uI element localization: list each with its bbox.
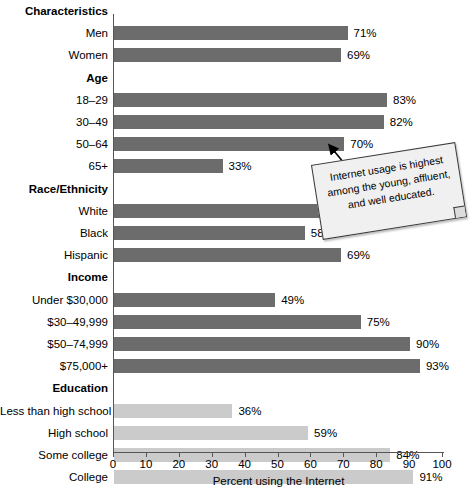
group-header-row: Education — [0, 377, 472, 399]
chart-row: High school59% — [0, 422, 472, 444]
category-label: 65+ — [0, 155, 108, 177]
category-label: Hispanic — [0, 244, 108, 266]
x-axis-title: Percent using the Internet — [113, 475, 444, 487]
bar — [114, 226, 305, 240]
chart-row: Women69% — [0, 44, 472, 66]
group-header-label: Income — [0, 266, 108, 288]
y-axis-line — [113, 14, 114, 452]
category-label: 18–29 — [0, 89, 108, 111]
x-tick — [212, 452, 213, 457]
x-tick — [409, 452, 410, 457]
category-label: Women — [0, 44, 108, 66]
chart-row: Hispanic69% — [0, 244, 472, 266]
chart-row: Men71% — [0, 22, 472, 44]
bar-value-label: 71% — [354, 22, 377, 44]
x-tick — [343, 452, 344, 457]
category-label: 30–49 — [0, 111, 108, 133]
chart-row: Under $30,00049% — [0, 289, 472, 311]
group-header-row: Income — [0, 266, 472, 288]
x-tick — [442, 452, 443, 457]
chart-row: 18–2983% — [0, 89, 472, 111]
bar — [114, 248, 341, 262]
category-label: High school — [0, 422, 108, 444]
bar-value-label: 33% — [229, 155, 252, 177]
bar-value-label: 49% — [281, 289, 304, 311]
callout-fold-corner — [453, 205, 466, 218]
category-label: $50–74,999 — [0, 333, 108, 355]
bar-value-label: 69% — [347, 44, 370, 66]
callout-text: Internet usage is highest among the youn… — [319, 151, 458, 216]
bar — [114, 315, 361, 329]
bar-value-label: 59% — [314, 422, 337, 444]
group-header-row: Characteristics — [0, 0, 472, 22]
x-tick — [179, 452, 180, 457]
chart-row: 30–4982% — [0, 111, 472, 133]
category-label: College — [0, 466, 108, 488]
x-tick — [278, 452, 279, 457]
chart-row: $75,000+93% — [0, 355, 472, 377]
group-header-label: Race/Ethnicity — [0, 178, 108, 200]
category-label: Men — [0, 22, 108, 44]
x-tick — [146, 452, 147, 457]
bar-value-label: 93% — [426, 355, 449, 377]
group-header-label: Age — [0, 67, 108, 89]
annotation-callout: Internet usage is highest among the youn… — [316, 145, 468, 245]
x-tick-label: 100 — [422, 458, 462, 470]
x-tick — [376, 452, 377, 457]
chart-row: $50–74,99990% — [0, 333, 472, 355]
bar — [114, 93, 387, 107]
x-axis-line — [113, 452, 444, 453]
x-tick — [310, 452, 311, 457]
bar-value-label: 82% — [390, 111, 413, 133]
category-label: Some college — [0, 444, 108, 466]
category-label: $30–49,999 — [0, 311, 108, 333]
bar-value-label: 75% — [367, 311, 390, 333]
bar — [114, 293, 275, 307]
bar — [114, 404, 232, 418]
group-header-label: Education — [0, 377, 108, 399]
bar-value-label: 36% — [238, 400, 261, 422]
category-label: Under $30,000 — [0, 289, 108, 311]
bar-value-label: 90% — [416, 333, 439, 355]
bar-value-label: 69% — [347, 244, 370, 266]
bar — [114, 426, 308, 440]
group-header-label: Characteristics — [0, 0, 108, 22]
bar-value-label: 83% — [393, 89, 416, 111]
chart-row: $30–49,99975% — [0, 311, 472, 333]
category-label: Black — [0, 222, 108, 244]
bar — [114, 337, 410, 351]
x-tick — [245, 452, 246, 457]
group-header-row: Age — [0, 67, 472, 89]
bar — [114, 48, 341, 62]
category-label: 50–64 — [0, 133, 108, 155]
chart-row: Less than high school36% — [0, 400, 472, 422]
category-label: $75,000+ — [0, 355, 108, 377]
bar — [114, 26, 348, 40]
bar-chart: CharacteristicsMen71%Women69%Age18–2983%… — [0, 0, 472, 493]
bar — [114, 159, 223, 173]
x-tick — [113, 452, 114, 457]
category-label: White — [0, 200, 108, 222]
category-label: Less than high school — [0, 400, 108, 422]
bar — [114, 359, 420, 373]
